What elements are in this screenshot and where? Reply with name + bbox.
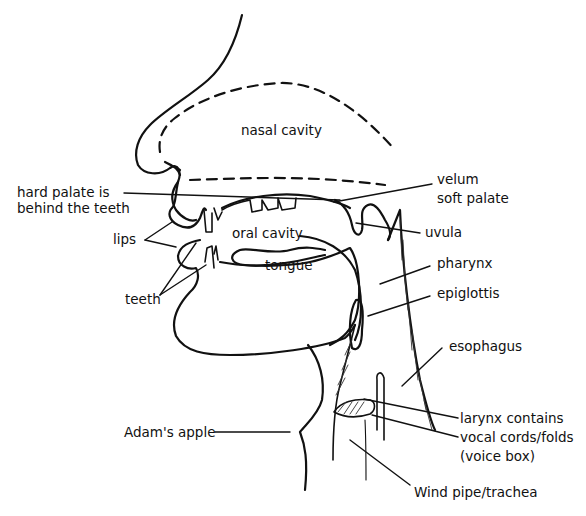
label-tongue: tongue [265, 257, 313, 273]
label-esophagus: esophagus [449, 338, 522, 354]
pharynx-hatching [400, 220, 432, 430]
nostril [165, 162, 180, 175]
label-velum: velum [437, 171, 479, 187]
upper-teeth-row [222, 198, 296, 212]
leader-teeth-lower [160, 265, 206, 295]
trachea-wall [365, 420, 366, 480]
label-hard-palate-1: hard palate is [17, 184, 110, 200]
label-uvula: uvula [425, 224, 462, 240]
label-nasal-cavity: nasal cavity [241, 122, 322, 138]
nasal-cavity-outline [160, 83, 395, 152]
label-pharynx: pharynx [437, 255, 492, 271]
label-lips: lips [113, 231, 136, 247]
label-vocal-cords: vocal cords/folds [460, 429, 574, 445]
leader-vocal-cords [372, 415, 458, 437]
label-adams-apple: Adam's apple [124, 424, 216, 440]
leader-velum [334, 184, 432, 202]
label-trachea: Wind pipe/trachea [414, 484, 538, 500]
vocal-tract-diagram: nasal cavity hard palate is behind the t… [0, 0, 586, 516]
label-teeth: teeth [125, 291, 161, 307]
velum [335, 200, 390, 240]
nasal-floor [190, 178, 385, 185]
leader-epiglottis [368, 296, 430, 316]
leader-lips-lower [145, 240, 176, 247]
pharynx-back-wall [388, 210, 435, 430]
lower-tooth-2 [214, 246, 218, 260]
esophagus-front [377, 373, 384, 440]
label-voice-box: (voice box) [460, 448, 535, 464]
label-larynx: larynx contains [460, 410, 564, 426]
leader-esophagus [402, 348, 442, 386]
label-hard-palate-2: behind the teeth [17, 200, 130, 216]
label-soft-palate: soft palate [437, 190, 509, 206]
upper-tooth-2 [214, 208, 222, 220]
upper-tooth [204, 210, 212, 232]
leader-lips-upper [145, 222, 172, 240]
label-oral-cavity: oral cavity [232, 225, 303, 241]
leader-trachea [350, 440, 410, 485]
neck-front [300, 345, 323, 490]
leader-larynx [364, 399, 458, 418]
label-epiglottis: epiglottis [437, 285, 500, 301]
